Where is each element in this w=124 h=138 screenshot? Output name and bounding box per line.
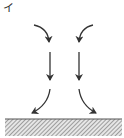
right-top-curve-arrow-icon — [79, 25, 93, 42]
ground-surface — [5, 119, 122, 136]
right-outflow-arrow-icon — [79, 89, 96, 113]
airflow-diagram — [0, 0, 124, 138]
left-outflow-arrow-icon — [32, 89, 50, 113]
left-top-curve-arrow-icon — [34, 25, 49, 42]
